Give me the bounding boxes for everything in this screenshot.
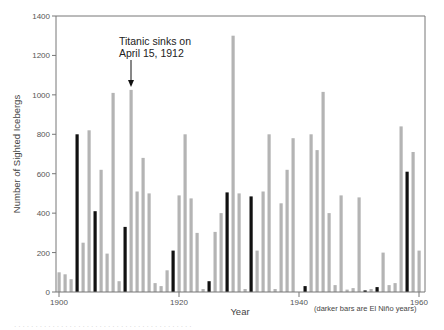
bar [64,274,67,292]
x-axis-label: Year [230,306,249,317]
bar [136,192,139,293]
y-tick-label: 400 [37,209,51,218]
bars-group [58,36,421,292]
bar [358,197,361,292]
x-tick-label: 1900 [50,298,68,307]
y-tick-label: 600 [37,170,51,179]
bar [292,138,295,292]
bar [322,92,325,292]
y-tick-label: 1000 [32,91,50,100]
bar [388,285,391,292]
y-tick-label: 200 [37,249,51,258]
bar [400,126,403,292]
bar-el-nino [172,251,175,292]
bar [82,243,85,292]
bar-el-nino [226,192,229,292]
bar [268,134,271,292]
bar [106,254,109,292]
titanic-annotation: Titanic sinks on April 15, 1912 [119,35,191,87]
y-tick-label: 0 [46,288,51,297]
bar [280,203,283,292]
bar [178,195,181,292]
bar-el-nino [304,286,307,292]
bar [418,251,421,292]
bar [232,36,235,292]
bar [214,232,217,292]
bar [142,158,145,292]
bar [310,134,313,292]
bar [340,195,343,292]
y-tick-label: 1200 [32,51,50,60]
y-axis-label: Number of Sighted Icebergs [11,95,22,214]
bar [148,193,151,292]
bar [328,213,331,292]
bar-el-nino [376,287,379,292]
bar [382,253,385,292]
bar [256,251,259,292]
bar-el-nino [76,134,79,292]
y-axis-ticks: 0200400600800100012001400 [32,12,56,297]
bar [190,198,193,292]
arrow-down-icon [128,80,134,87]
y-tick-label: 800 [37,130,51,139]
bar [286,170,289,292]
bar-el-nino [94,211,97,292]
bar [112,93,115,292]
bar [238,193,241,292]
iceberg-bar-chart: 0200400600800100012001400 19001920194019… [0,0,444,330]
el-nino-note: (darker bars are El Niño years) [314,304,417,313]
bar [196,233,199,292]
bar [184,134,187,292]
bar [118,281,121,292]
bar [154,283,157,292]
bar-el-nino [250,196,253,292]
bar-el-nino [124,227,127,292]
x-tick-label: 1940 [290,298,308,307]
bar [166,270,169,292]
bar [160,286,163,292]
figure-caption: · · · · · · · · · · · · · · · · · · · · … [14,323,192,330]
annotation-line-2: April 15, 1912 [119,47,184,59]
bar [334,285,337,292]
bar [220,213,223,292]
bar [88,130,91,292]
bar [262,192,265,293]
annotation-line-1: Titanic sinks on [119,35,191,47]
y-tick-label: 1400 [32,12,50,21]
x-tick-label: 1920 [170,298,188,307]
bar [352,288,355,292]
bar [412,152,415,292]
bar [130,90,133,292]
bar-el-nino [406,172,409,292]
bar [58,272,61,292]
bar [316,150,319,292]
bar [394,283,397,292]
bar [70,279,73,292]
bar-el-nino [208,281,211,292]
bar [100,170,103,292]
